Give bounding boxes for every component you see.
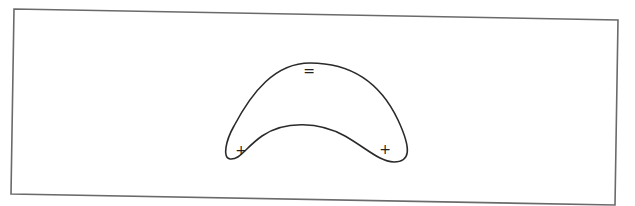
right-positive-charge-label: + [379, 141, 391, 157]
figure-frame [11, 9, 618, 205]
negative-charge-label: = [303, 63, 315, 79]
diagram-canvas: = + + [0, 0, 635, 206]
left-positive-charge-label: + [235, 142, 247, 158]
